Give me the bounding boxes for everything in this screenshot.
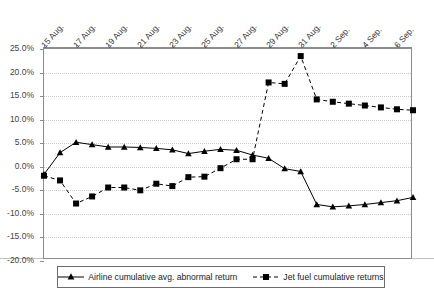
data-point-square — [121, 185, 127, 191]
series-layer — [44, 49, 413, 261]
data-point-triangle — [281, 165, 288, 171]
data-point-square — [250, 156, 256, 162]
legend-label-airline: Airline cumulative avg. abnormal return — [88, 272, 237, 282]
y-axis-label: 15.0% — [0, 91, 34, 100]
data-point-square — [394, 106, 400, 112]
data-point-square — [298, 53, 304, 59]
y-axis-label: -20.0% — [0, 256, 34, 265]
y-axis-label: 25.0% — [0, 44, 34, 53]
data-point-square — [378, 104, 384, 110]
x-axis-label: 23 Aug. — [168, 22, 194, 49]
data-point-square — [89, 193, 95, 199]
data-point-square — [217, 165, 223, 171]
data-point-square — [137, 187, 143, 193]
y-axis-tick — [40, 261, 44, 262]
x-axis-label: 29 Aug. — [264, 22, 290, 49]
x-axis-label: 2 Sep. — [328, 26, 351, 50]
data-point-triangle — [73, 139, 80, 145]
data-point-square — [282, 81, 288, 87]
data-point-square — [57, 177, 63, 183]
series-airline — [41, 139, 417, 210]
chart-legend: Airline cumulative avg. abnormal return … — [57, 266, 385, 288]
data-point-square — [266, 79, 272, 85]
x-axis-label: 15 Aug. — [40, 22, 66, 49]
x-axis-label: 31 Aug. — [296, 22, 322, 49]
legend-item-airline[interactable]: Airline cumulative avg. abnormal return — [58, 272, 237, 282]
series-line — [44, 56, 413, 203]
y-axis-label: 20.0% — [0, 68, 34, 77]
data-point-triangle — [410, 194, 417, 200]
legend-item-jetfuel[interactable]: Jet fuel cumulative returns — [253, 272, 383, 282]
data-point-square — [410, 107, 416, 113]
data-point-square — [185, 174, 191, 180]
x-axis-label: 6 Sep. — [393, 26, 416, 50]
x-axis-label: 17 Aug. — [72, 22, 98, 49]
series-jetfuel — [41, 53, 416, 206]
data-point-square — [330, 99, 336, 105]
data-point-square — [234, 156, 240, 162]
data-point-square — [314, 96, 320, 102]
y-axis-label: -10.0% — [0, 209, 34, 218]
chart-container: 25.0%20.0%15.0%10.0%5.0%0.0%-5.0%-10.0%-… — [0, 0, 434, 295]
data-point-square — [105, 185, 111, 191]
y-axis-label: 10.0% — [0, 115, 34, 124]
data-point-square — [73, 201, 79, 207]
y-axis-label: -15.0% — [0, 232, 34, 241]
data-point-triangle — [57, 149, 64, 155]
y-axis-label: -5.0% — [0, 185, 34, 194]
legend-marker-triangle-icon — [58, 272, 84, 282]
data-point-square — [41, 173, 47, 179]
series-line — [44, 142, 413, 207]
data-point-triangle — [313, 201, 320, 207]
data-point-square — [169, 183, 175, 189]
x-axis-label: 4 Sep. — [361, 26, 384, 50]
data-point-square — [153, 181, 159, 187]
data-point-square — [346, 101, 352, 107]
y-axis-label: 0.0% — [0, 162, 34, 171]
plot-area: 25.0%20.0%15.0%10.0%5.0%0.0%-5.0%-10.0%-… — [43, 47, 412, 259]
x-axis-label: 25 Aug. — [200, 22, 226, 49]
data-point-square — [362, 103, 368, 109]
x-axis-label: 21 Aug. — [136, 22, 162, 49]
legend-marker-square-icon — [253, 272, 279, 282]
y-axis-label: 5.0% — [0, 138, 34, 147]
x-axis-label: 27 Aug. — [232, 22, 258, 49]
legend-label-jetfuel: Jet fuel cumulative returns — [283, 272, 383, 282]
data-point-square — [201, 174, 207, 180]
x-axis-label: 19 Aug. — [104, 22, 130, 49]
